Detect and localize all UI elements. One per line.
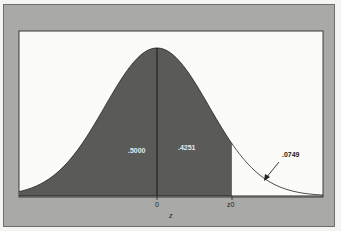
label-tail-area: .0749 [282, 151, 300, 158]
tick-zero: 0 [155, 201, 159, 208]
x-axis-label: z [168, 212, 173, 219]
label-left-area: .5000 [128, 147, 146, 154]
normal-curve-chart: .5000 .4251 .0749 0 z0 z [0, 0, 341, 231]
label-middle-area: .4251 [178, 144, 196, 151]
tick-z0: z0 [227, 201, 235, 208]
